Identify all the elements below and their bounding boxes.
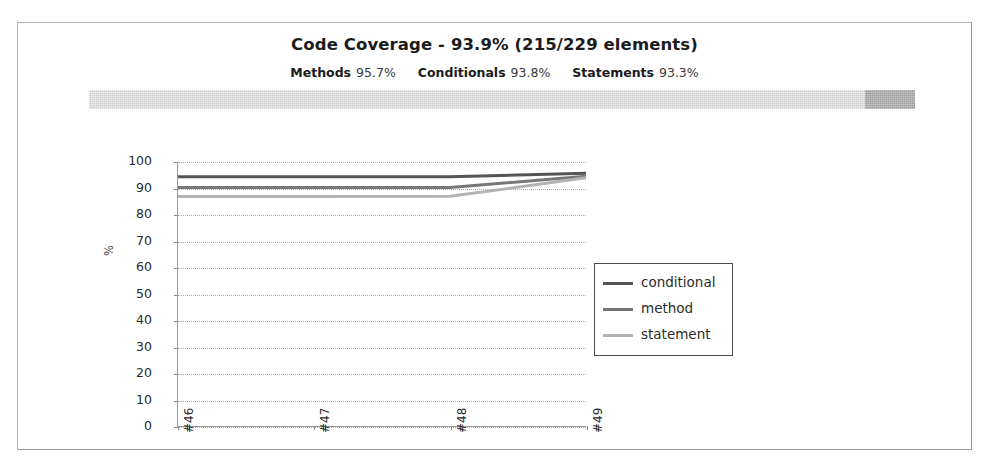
metric-conditionals: Conditionals93.8% bbox=[418, 65, 551, 80]
y-tick-label: 70 bbox=[116, 235, 152, 248]
y-tick-mark bbox=[174, 374, 178, 375]
y-tick-label: 50 bbox=[116, 288, 152, 301]
coverage-bar-uncovered-segment bbox=[865, 90, 915, 109]
gridline bbox=[178, 242, 586, 243]
series-line-conditional bbox=[178, 173, 586, 176]
x-tick-label: #47 bbox=[318, 408, 332, 433]
y-tick-label: 20 bbox=[116, 367, 152, 380]
y-tick-label: 90 bbox=[116, 182, 152, 195]
gridline bbox=[178, 268, 586, 269]
x-axis-tick-labels: #46#47#48#49 bbox=[177, 427, 586, 469]
y-tick-mark bbox=[174, 348, 178, 349]
legend-item-conditional: conditional bbox=[603, 270, 724, 296]
coverage-history-chart: % 1009080706050403020100 #46#47#48#49 co… bbox=[78, 121, 638, 431]
y-axis-tick-labels: 1009080706050403020100 bbox=[116, 121, 152, 431]
y-tick-label: 100 bbox=[116, 155, 152, 168]
legend-item-method: method bbox=[603, 296, 724, 322]
y-tick-label: 30 bbox=[116, 341, 152, 354]
coverage-metrics-summary: Methods95.7% Conditionals93.8% Statement… bbox=[18, 65, 971, 80]
y-tick-label: 80 bbox=[116, 208, 152, 221]
legend-item-statement: statement bbox=[603, 322, 724, 348]
gridline bbox=[178, 401, 586, 402]
y-tick-mark bbox=[174, 215, 178, 216]
legend-swatch-method bbox=[603, 308, 633, 311]
y-tick-label: 10 bbox=[116, 394, 152, 407]
gridline bbox=[178, 321, 586, 322]
metric-statements-label: Statements bbox=[572, 65, 654, 80]
y-tick-label: 60 bbox=[116, 261, 152, 274]
metric-conditionals-value: 93.8% bbox=[511, 65, 551, 80]
y-tick-mark bbox=[174, 321, 178, 322]
metric-conditionals-label: Conditionals bbox=[418, 65, 506, 80]
metric-methods-label: Methods bbox=[290, 65, 351, 80]
y-tick-mark bbox=[174, 295, 178, 296]
y-tick-mark bbox=[174, 162, 178, 163]
y-tick-mark bbox=[174, 189, 178, 190]
gridline bbox=[178, 374, 586, 375]
metric-statements: Statements93.3% bbox=[572, 65, 698, 80]
gridline bbox=[178, 348, 586, 349]
legend-label-conditional: conditional bbox=[641, 276, 715, 290]
gridline bbox=[178, 162, 586, 163]
y-tick-mark bbox=[174, 401, 178, 402]
chart-plot-area bbox=[177, 162, 586, 427]
metric-statements-value: 93.3% bbox=[659, 65, 699, 80]
y-tick-mark bbox=[174, 242, 178, 243]
x-tick-label: #49 bbox=[591, 408, 605, 433]
page-title: Code Coverage - 93.9% (215/229 elements) bbox=[18, 35, 971, 54]
gridline bbox=[178, 295, 586, 296]
legend-label-method: method bbox=[641, 302, 693, 316]
metric-methods: Methods95.7% bbox=[290, 65, 396, 80]
y-tick-mark bbox=[174, 268, 178, 269]
gridline bbox=[178, 215, 586, 216]
x-tick-label: #46 bbox=[182, 408, 196, 433]
y-tick-label: 0 bbox=[116, 420, 152, 433]
legend-label-statement: statement bbox=[641, 328, 711, 342]
coverage-report-panel: Code Coverage - 93.9% (215/229 elements)… bbox=[17, 22, 972, 450]
x-tick-mark bbox=[587, 426, 588, 430]
coverage-bar-covered-segment bbox=[89, 90, 865, 109]
gridline bbox=[178, 189, 586, 190]
y-tick-label: 40 bbox=[116, 314, 152, 327]
chart-legend: conditional method statement bbox=[594, 263, 733, 356]
legend-swatch-statement bbox=[603, 334, 633, 337]
legend-swatch-conditional bbox=[603, 282, 633, 285]
x-tick-label: #48 bbox=[455, 408, 469, 433]
coverage-progress-bar bbox=[89, 90, 915, 109]
metric-methods-value: 95.7% bbox=[356, 65, 396, 80]
y-axis-title: % bbox=[102, 245, 116, 256]
